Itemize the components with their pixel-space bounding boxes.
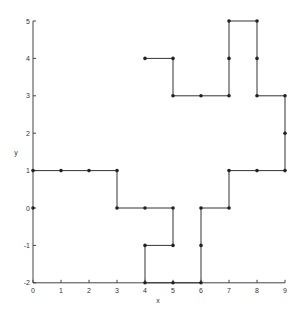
data-point-marker: [283, 169, 287, 173]
data-point-marker: [199, 94, 203, 98]
data-series: [31, 19, 287, 284]
data-point-marker: [171, 206, 175, 210]
x-tick-label: 0: [31, 287, 35, 294]
data-point-marker: [115, 169, 119, 173]
data-point-marker: [59, 169, 63, 173]
y-tick-label: 3: [26, 92, 30, 99]
data-point-marker: [171, 244, 175, 248]
y-tick-label: -1: [24, 242, 30, 249]
data-point-marker: [283, 94, 287, 98]
x-axis-label: x: [156, 297, 160, 304]
data-point-marker: [115, 206, 119, 210]
y-tick-label: 1: [26, 167, 30, 174]
y-tick-label: 5: [26, 18, 30, 25]
x-tick-label: 6: [199, 287, 203, 294]
data-point-marker: [143, 57, 147, 61]
data-point-marker: [227, 169, 231, 173]
data-point-marker: [283, 131, 287, 135]
y-tick-label: -2: [24, 279, 30, 286]
y-tick-label: 0: [26, 205, 30, 212]
data-point-marker: [31, 206, 35, 210]
data-point-marker: [255, 19, 259, 23]
data-point-marker: [227, 19, 231, 23]
path-line: [33, 21, 285, 283]
data-point-marker: [171, 281, 175, 285]
data-point-marker: [255, 94, 259, 98]
data-point-marker: [171, 57, 175, 61]
step-path-chart: 0123456789-2-1012345 x y: [0, 0, 306, 312]
x-tick-label: 7: [227, 287, 231, 294]
data-point-marker: [143, 244, 147, 248]
data-point-marker: [255, 57, 259, 61]
data-point-marker: [87, 169, 91, 173]
x-tick-label: 2: [87, 287, 91, 294]
data-point-marker: [199, 206, 203, 210]
x-tick-label: 1: [59, 287, 63, 294]
x-tick-label: 5: [171, 287, 175, 294]
x-tick-label: 9: [283, 287, 287, 294]
y-axis-label: y: [14, 149, 18, 157]
data-point-marker: [171, 94, 175, 98]
data-point-marker: [31, 169, 35, 173]
x-tick-label: 3: [115, 287, 119, 294]
data-point-marker: [227, 57, 231, 61]
data-point-marker: [227, 94, 231, 98]
data-point-marker: [143, 281, 147, 285]
y-tick-label: 2: [26, 130, 30, 137]
data-point-marker: [227, 206, 231, 210]
data-point-marker: [143, 206, 147, 210]
data-point-marker: [199, 281, 203, 285]
x-tick-label: 8: [255, 287, 259, 294]
x-tick-label: 4: [143, 287, 147, 294]
axes: 0123456789-2-1012345: [24, 18, 287, 294]
data-point-marker: [255, 169, 259, 173]
data-point-marker: [199, 244, 203, 248]
y-tick-label: 4: [26, 55, 30, 62]
